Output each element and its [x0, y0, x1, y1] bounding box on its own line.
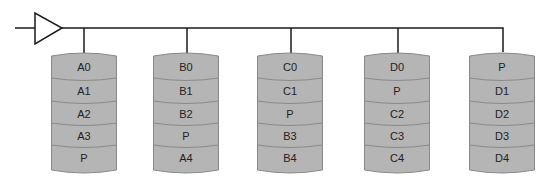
block-label: A1: [51, 80, 117, 103]
block-label: A2: [51, 103, 117, 125]
block-label: B0: [153, 55, 219, 80]
block-label: B4: [257, 147, 323, 170]
block-label: P: [153, 125, 219, 147]
block-label: B3: [257, 125, 323, 147]
block-label: D2: [469, 103, 535, 125]
block-label: P: [364, 80, 430, 103]
block-label: C1: [257, 80, 323, 103]
bus-line: [62, 28, 503, 52]
block-label: P: [469, 55, 535, 80]
disk-5: PD1D2D3D4: [469, 50, 535, 175]
block-label: B1: [153, 80, 219, 103]
block-label: D1: [469, 80, 535, 103]
disk-3: C0C1PB3B4: [257, 50, 323, 175]
block-label: A0: [51, 55, 117, 80]
controller-triangle-icon: [35, 13, 62, 44]
block-label: C3: [364, 125, 430, 147]
block-label: A4: [153, 147, 219, 170]
disk-4: D0PC2C3C4: [364, 50, 430, 175]
block-label: C2: [364, 103, 430, 125]
disk-1: A0A1A2A3P: [51, 50, 117, 175]
block-label: B2: [153, 103, 219, 125]
block-label: P: [51, 147, 117, 170]
block-label: A3: [51, 125, 117, 147]
block-label: D0: [364, 55, 430, 80]
block-label: D4: [469, 147, 535, 170]
disk-2: B0B1B2PA4: [153, 50, 219, 175]
block-label: D3: [469, 125, 535, 147]
block-label: C4: [364, 147, 430, 170]
block-label: P: [257, 103, 323, 125]
block-label: C0: [257, 55, 323, 80]
